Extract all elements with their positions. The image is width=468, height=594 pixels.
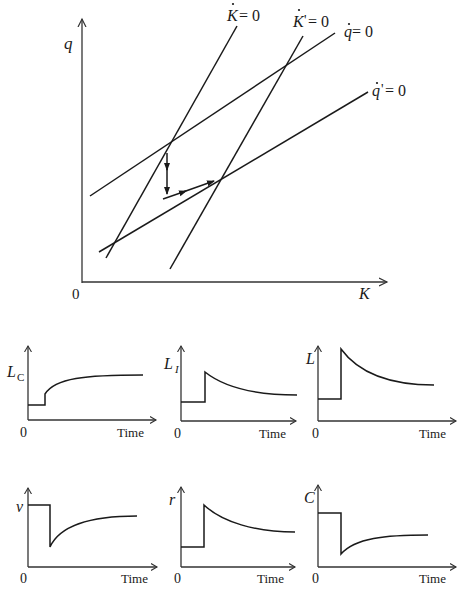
panel-lc-ylabel: L <box>6 363 16 380</box>
panel-l: L 0 Time <box>305 346 456 441</box>
svg-text:Time: Time <box>117 425 144 440</box>
panel-l-ylabel: L <box>305 350 315 367</box>
svg-text:0: 0 <box>312 571 319 586</box>
panel-v-ylabel: v <box>16 498 24 515</box>
panel-r: r 0 Time <box>169 487 295 586</box>
k-axis-label: K <box>358 285 371 302</box>
svg-text:= 0: = 0 <box>239 7 260 24</box>
svg-text:': ' <box>381 82 384 97</box>
svg-text:C: C <box>17 371 24 383</box>
adjustment-path <box>163 153 214 199</box>
svg-text:': ' <box>304 13 307 28</box>
svg-text:Time: Time <box>259 426 286 441</box>
panel-c-ylabel: C <box>304 489 315 506</box>
svg-text:0: 0 <box>20 425 27 440</box>
svg-text:K: K <box>226 7 239 24</box>
k-prime-dot-zero-line <box>170 36 303 269</box>
svg-text:0: 0 <box>20 571 27 586</box>
svg-text:Time: Time <box>121 571 148 586</box>
panel-lc: L C 0 Time <box>6 346 156 440</box>
q-prime-dot-zero-line <box>99 92 368 252</box>
svg-text:q: q <box>344 23 352 41</box>
panel-li: L I 0 Time <box>163 346 297 441</box>
label-k-prime-dot-zero: K ' = 0 <box>292 9 329 30</box>
svg-text:Time: Time <box>419 426 446 441</box>
svg-text:q: q <box>372 82 380 100</box>
label-q-prime-dot-zero: q ' = 0 <box>372 82 406 100</box>
panel-r-ylabel: r <box>169 491 176 508</box>
svg-text:0: 0 <box>174 426 181 441</box>
figure-canvas: q K 0 K = 0 K ' = 0 q = 0 <box>0 0 468 594</box>
svg-text:I: I <box>174 363 180 375</box>
panel-v: v 0 Time <box>16 488 157 586</box>
q-axis-label: q <box>64 34 73 53</box>
panel-li-ylabel: L <box>163 355 173 372</box>
label-k-dot-zero: K = 0 <box>226 3 260 24</box>
svg-text:0: 0 <box>174 571 181 586</box>
svg-text:= 0: = 0 <box>352 23 373 40</box>
svg-text:Time: Time <box>419 571 446 586</box>
phase-diagram: q K 0 K = 0 K ' = 0 q = 0 <box>64 3 406 302</box>
panel-c: C 0 Time <box>304 485 456 586</box>
q-dot-zero-line <box>90 33 335 196</box>
svg-text:Time: Time <box>257 571 284 586</box>
svg-text:= 0: = 0 <box>385 82 406 99</box>
origin-label: 0 <box>72 286 80 302</box>
label-q-dot-zero: q = 0 <box>344 23 373 41</box>
svg-text:0: 0 <box>312 426 319 441</box>
svg-text:= 0: = 0 <box>308 13 329 30</box>
